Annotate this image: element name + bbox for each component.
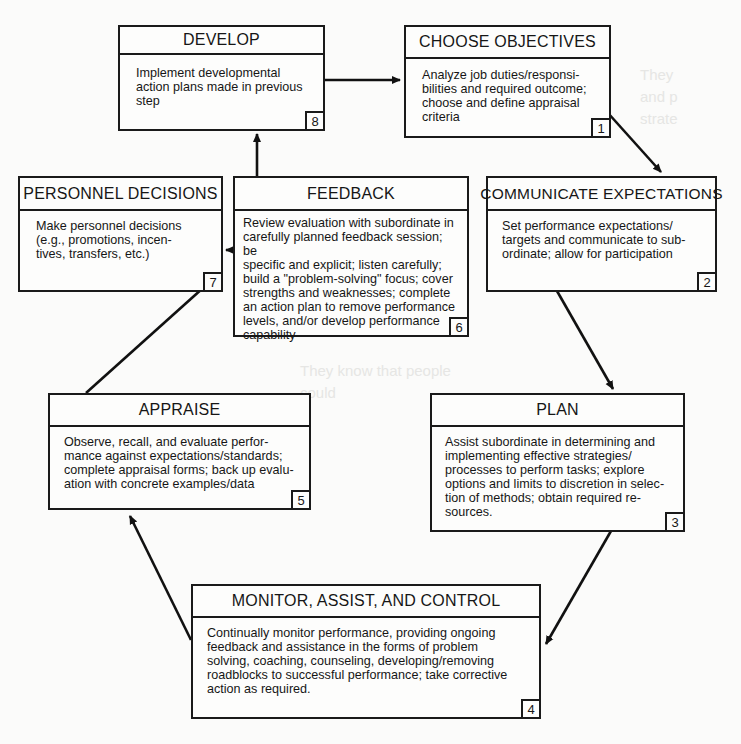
arrow-choose-objectives-to-communicate (608, 113, 661, 172)
step-box-plan: PLAN Assist subordinate in determining a… (430, 393, 685, 532)
description-line: Analyze job duties/responsi- (422, 68, 601, 82)
description-line: processes to perform tasks; explore (445, 463, 675, 477)
description-line: carefully planned feedback session; be (243, 230, 459, 258)
step-description: Continually monitor performance, providi… (193, 618, 539, 696)
description-line: action plans made in previous (136, 80, 315, 94)
description-line: Implement developmental (136, 66, 315, 80)
description-line: options and limits to discretion in sele… (445, 477, 675, 491)
description-line: choose and define appraisal (422, 96, 601, 110)
step-description: Analyze job duties/responsi- bilities an… (406, 59, 609, 124)
description-line: (e.g., promotions, incen- (36, 233, 213, 247)
description-line: action as required. (207, 682, 531, 696)
description-line: ordinate; allow for participation (502, 247, 707, 261)
description-line: Continually monitor performance, providi… (207, 626, 531, 640)
arrow-monitor-to-appraise (130, 516, 191, 640)
description-line: tion of methods; obtain required re- (445, 491, 675, 505)
step-box-appraise: APPRAISE Observe, recall, and evaluate p… (48, 393, 311, 510)
step-description: Review evaluation with subordinate in ca… (235, 211, 467, 342)
description-line: Assist subordinate in determining and (445, 435, 675, 449)
step-box-monitor-assist-control: MONITOR, ASSIST, AND CONTROL Continually… (191, 584, 541, 719)
description-line: mance against expectations/standards; (64, 449, 301, 463)
description-line: an action plan to remove performance (243, 300, 459, 314)
description-line: Make personnel decisions (36, 219, 213, 233)
description-line: Observe, recall, and evaluate perfor- (64, 435, 301, 449)
description-line: strengths and weaknesses; complete (243, 286, 459, 300)
step-title: DEVELOP (120, 27, 323, 55)
step-box-develop: DEVELOP Implement developmental action p… (118, 25, 325, 131)
step-number-badge: 3 (665, 512, 685, 532)
step-title: COMMUNICATE EXPECTATIONS (488, 178, 715, 211)
step-number-badge: 8 (305, 111, 325, 131)
step-description: Set performance expectations/ targets an… (488, 211, 715, 261)
step-number-badge: 2 (697, 272, 717, 292)
description-line: criteria (422, 110, 601, 124)
description-line: Set performance expectations/ (502, 219, 707, 233)
description-line: step (136, 94, 315, 108)
step-number-badge: 6 (449, 317, 469, 337)
description-line: tives, transfers, etc.) (36, 247, 213, 261)
step-description: Observe, recall, and evaluate perfor- ma… (50, 427, 309, 491)
step-title: FEEDBACK (235, 178, 467, 211)
description-line: capability (243, 328, 459, 342)
step-box-communicate-expectations: COMMUNICATE EXPECTATIONS Set performance… (486, 176, 717, 292)
description-line: build a "problem-solving" focus; cover (243, 272, 459, 286)
step-title: PERSONNEL DECISIONS (20, 178, 221, 211)
step-description: Assist subordinate in determining and im… (432, 427, 683, 519)
step-title: PLAN (432, 395, 683, 427)
step-description: Implement developmental action plans mad… (120, 55, 323, 108)
arrow-communicate-to-plan (557, 291, 613, 389)
description-line: solving, coaching, counseling, developin… (207, 654, 531, 668)
step-title: CHOOSE OBJECTIVES (406, 27, 609, 59)
description-line: roadblocks to successful performance; ta… (207, 668, 531, 682)
description-line: sources. (445, 505, 675, 519)
step-title: APPRAISE (50, 395, 309, 427)
description-line: bilities and required outcome; (422, 82, 601, 96)
description-line: complete appraisal forms; back up evalu- (64, 463, 301, 477)
step-number-badge: 4 (521, 699, 541, 719)
step-number-badge: 5 (291, 490, 311, 510)
step-box-personnel-decisions: PERSONNEL DECISIONS Make personnel decis… (18, 176, 223, 292)
step-number-badge: 1 (591, 118, 611, 138)
description-line: implementing effective strategies/ (445, 449, 675, 463)
description-line: specific and explicit; listen carefully; (243, 258, 459, 272)
step-box-choose-objectives: CHOOSE OBJECTIVES Analyze job duties/res… (404, 25, 611, 138)
step-title: MONITOR, ASSIST, AND CONTROL (193, 586, 539, 618)
arrow-plan-to-monitor (546, 531, 611, 644)
step-box-feedback: FEEDBACK Review evaluation with subordin… (233, 176, 469, 337)
description-line: levels, and/or develop performance (243, 314, 459, 328)
description-line: ation with concrete examples/data (64, 477, 301, 491)
description-line: Review evaluation with subordinate in (243, 216, 459, 230)
description-line: targets and communicate to sub- (502, 233, 707, 247)
step-number-badge: 7 (203, 272, 223, 292)
description-line: feedback and assistance in the forms of … (207, 640, 531, 654)
step-description: Make personnel decisions (e.g., promotio… (20, 211, 221, 261)
arrow-appraise-to-feedback (86, 279, 213, 393)
